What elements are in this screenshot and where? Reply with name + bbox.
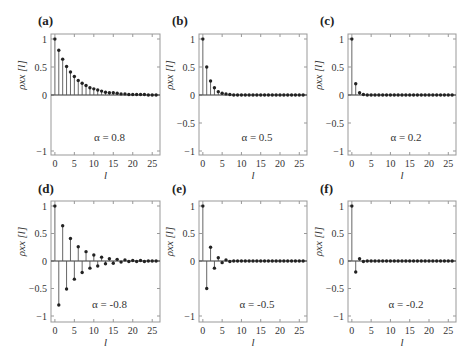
stem-marker xyxy=(298,93,301,96)
stem-marker xyxy=(447,93,450,96)
stem-marker xyxy=(139,93,142,96)
stem-marker xyxy=(358,257,361,260)
y-tick-label: −0.5 xyxy=(326,283,344,294)
stem-marker xyxy=(80,271,83,274)
y-tick-label: −0.5 xyxy=(326,118,344,129)
x-tick-label: 25 xyxy=(147,325,157,336)
stem-marker xyxy=(131,259,134,262)
stem-marker xyxy=(282,93,285,96)
y-axis-label: ρxx [l] xyxy=(163,60,175,90)
x-tick-label: 0 xyxy=(349,158,354,169)
stem-marker xyxy=(139,259,142,262)
stem-marker xyxy=(119,92,122,95)
x-axis-label: l xyxy=(104,336,107,348)
stem-marker xyxy=(84,250,87,253)
x-tick-label: 10 xyxy=(385,325,395,336)
stem-marker xyxy=(412,93,415,96)
stem-marker xyxy=(251,93,254,96)
y-axis-label: ρxx [l] xyxy=(312,60,324,90)
stem-marker xyxy=(290,259,293,262)
stem-marker xyxy=(447,259,450,262)
stem-marker xyxy=(439,93,442,96)
stem-marker xyxy=(354,270,357,273)
stem-marker xyxy=(408,93,411,96)
x-tick-label: 25 xyxy=(443,158,453,169)
stem-marker xyxy=(366,259,369,262)
stem-marker xyxy=(53,204,56,207)
y-tick-label: 0 xyxy=(42,90,47,101)
stem-marker xyxy=(385,93,388,96)
stem-marker xyxy=(263,259,266,262)
x-tick-label: 20 xyxy=(128,325,138,336)
stem-marker xyxy=(201,204,204,207)
stem-marker xyxy=(416,93,419,96)
panel-e: −100.510510152025α = -0.5lρxx [l](e) xyxy=(163,181,307,348)
y-tick-label: −1 xyxy=(184,146,195,157)
stem-marker xyxy=(427,259,430,262)
stem-marker xyxy=(350,37,353,40)
y-tick-label: −0.5 xyxy=(29,283,47,294)
stem-marker xyxy=(385,259,388,262)
y-tick-label: −1 xyxy=(184,311,195,322)
stem-marker xyxy=(228,260,231,263)
y-tick-label: −1 xyxy=(333,146,344,157)
x-tick-label: 0 xyxy=(52,158,57,169)
stem-marker xyxy=(147,93,150,96)
stem-marker xyxy=(435,93,438,96)
stem-marker xyxy=(439,259,442,262)
stem-marker xyxy=(53,37,56,40)
x-tick-label: 5 xyxy=(72,325,77,336)
panel-label: (d) xyxy=(38,181,54,196)
stem-marker xyxy=(389,93,392,96)
autocorrelation-figure: −100.510510152025α = 0.8lρxx [l](a)−1−0.… xyxy=(0,0,475,358)
stem-marker xyxy=(247,259,250,262)
panel-label: (e) xyxy=(172,181,186,196)
stem-marker xyxy=(115,92,118,95)
stem-marker xyxy=(123,92,126,95)
stem-marker xyxy=(247,93,250,96)
stem-marker xyxy=(366,93,369,96)
stem-marker xyxy=(373,259,376,262)
y-tick-label: 0 xyxy=(190,90,195,101)
stem-marker xyxy=(286,259,289,262)
y-tick-label: 1 xyxy=(190,201,195,212)
stem-marker xyxy=(92,87,95,90)
stem-marker xyxy=(412,259,415,262)
x-tick-label: 15 xyxy=(256,325,266,336)
stem-marker xyxy=(151,93,154,96)
stem-marker xyxy=(420,93,423,96)
stem-marker xyxy=(450,93,453,96)
stem-marker xyxy=(135,93,138,96)
stem-marker xyxy=(224,92,227,95)
stem-marker xyxy=(108,257,111,260)
stem-marker xyxy=(119,260,122,263)
stem-marker xyxy=(220,92,223,95)
stem-marker xyxy=(104,262,107,265)
stem-marker xyxy=(100,255,103,258)
alpha-annotation: α = -0.5 xyxy=(240,298,275,310)
alpha-annotation: α = -0.8 xyxy=(92,298,127,310)
y-tick-label: 0.5 xyxy=(332,62,345,73)
stem-marker xyxy=(301,93,304,96)
x-axis-label: l xyxy=(104,169,107,181)
stem-marker xyxy=(112,91,115,94)
stem-marker xyxy=(294,259,297,262)
y-tick-label: 1 xyxy=(339,34,344,45)
x-tick-label: 10 xyxy=(385,158,395,169)
panel-c: −1−0.500.510510152025α = 0.2lρxx [l](c) xyxy=(312,13,456,181)
y-axis-label: ρxx [l] xyxy=(15,227,27,257)
x-tick-label: 15 xyxy=(256,158,266,169)
panel-label: (a) xyxy=(38,13,53,28)
stem-marker xyxy=(220,261,223,264)
stem-marker xyxy=(450,259,453,262)
stem-marker xyxy=(92,253,95,256)
stem-marker xyxy=(416,259,419,262)
alpha-annotation: α = -0.2 xyxy=(389,298,424,310)
stem-marker xyxy=(84,84,87,87)
panel-d: −1−0.500.510510152025α = -0.8lρxx [l](d) xyxy=(15,181,160,348)
y-axis-label: ρxx [l] xyxy=(163,227,175,257)
stem-marker xyxy=(131,93,134,96)
alpha-annotation: α = 0.8 xyxy=(94,131,126,143)
y-tick-label: −1 xyxy=(36,311,47,322)
stem-marker xyxy=(267,259,270,262)
